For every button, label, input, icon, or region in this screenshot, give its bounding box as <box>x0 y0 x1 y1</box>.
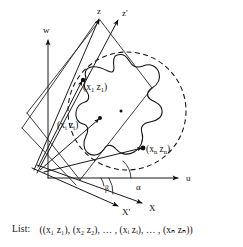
caption-list-text: ((x₁ z₁), (x₂ z₂), … , (xᵢ zᵢ), … , (xₙ … <box>39 224 192 235</box>
u-axis-label: u <box>186 173 191 183</box>
point-label-n-mid: z <box>157 144 164 154</box>
x-prime-axis-label: X' <box>122 207 130 217</box>
x-axis-label: X <box>149 203 156 213</box>
caption-row: List: ((x₁ z₁), (x₂ z₂), … , (xᵢ zᵢ), … … <box>0 224 243 244</box>
svg-text:(xn zn): (xn zn) <box>146 144 170 155</box>
beta-angle-label: β <box>105 184 109 193</box>
diagram-canvas: w u z z' X X' <box>0 0 243 247</box>
z-axis-label: z <box>97 6 101 16</box>
rotated-frame-zprime-xprime <box>22 22 96 185</box>
point-label-i-mid: z <box>67 120 74 130</box>
svg-text:(xi zi): (xi zi) <box>57 120 78 131</box>
point-label-1-post: ) <box>104 82 107 93</box>
z-prime-axis-label: z' <box>122 8 128 18</box>
x-axis-arrow <box>37 165 142 203</box>
point-label-i: (xi zi) <box>57 120 78 131</box>
z-prime-axis-arrow <box>37 20 118 173</box>
w-axis-label: w <box>43 25 50 35</box>
radius-vector-point-n <box>44 146 145 172</box>
svg-text:(x1 z1): (x1 z1) <box>83 82 107 93</box>
point-label-n: (xn zn) <box>146 144 170 155</box>
caption-label: List: <box>12 224 30 234</box>
point-label-i-post: ) <box>75 120 78 131</box>
alpha-angle-label: α <box>136 182 141 192</box>
point-label-1: (x1 z1) <box>83 82 107 93</box>
object-boundary-blob <box>76 54 162 155</box>
figure-container: w u z z' X X' <box>0 0 243 247</box>
point-label-1-mid: z <box>94 82 101 92</box>
centroid-dot <box>120 110 123 113</box>
point-label-n-post: ) <box>167 144 170 155</box>
